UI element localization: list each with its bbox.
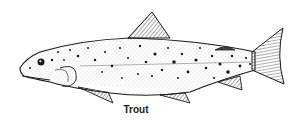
trout-figure: Trout	[0, 0, 302, 140]
caudal-fin	[252, 28, 284, 84]
fish-body	[20, 38, 255, 95]
figure-caption: Trout	[0, 104, 272, 115]
trout-illustration	[0, 0, 302, 140]
dorsal-fin	[128, 12, 170, 38]
